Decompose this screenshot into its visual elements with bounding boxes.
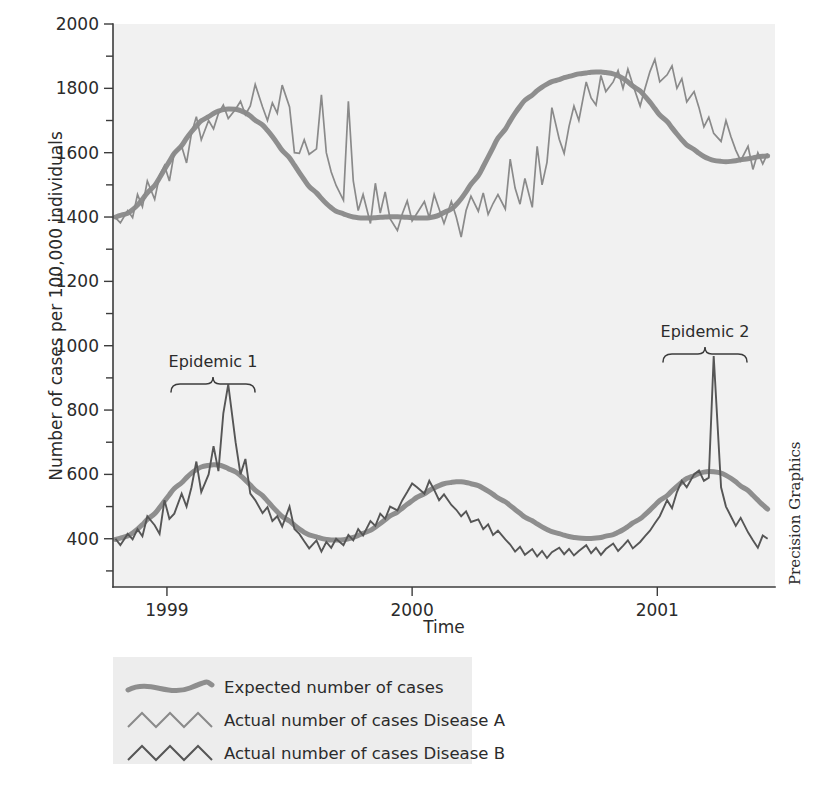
y-tick-label: 1800 <box>56 78 99 98</box>
legend-label: Actual number of cases Disease B <box>224 744 505 763</box>
y-axis-ticks <box>104 24 113 571</box>
x-tick-label: 2001 <box>636 600 679 620</box>
y-tick-label: 800 <box>67 400 99 420</box>
y-tick-label: 600 <box>67 464 99 484</box>
legend-label: Expected number of cases <box>224 678 444 697</box>
x-tick-label: 1999 <box>145 600 188 620</box>
y-axis-title-text: Number of cases per 100,000 individuals <box>46 131 66 481</box>
epidemic-annotation-label: Epidemic 2 <box>661 322 750 341</box>
y-tick-label: 400 <box>67 529 99 549</box>
x-axis-title-text: Time <box>422 617 465 637</box>
legend: Expected number of casesActual number of… <box>113 657 506 764</box>
chart-figure: 400600800100012001400160018002000 199920… <box>0 0 832 792</box>
credit-text: Precision Graphics <box>786 441 804 585</box>
epidemic-annotation-label: Epidemic 1 <box>169 352 258 371</box>
y-axis-title: Number of cases per 100,000 individuals <box>46 131 66 481</box>
plot-background <box>113 24 775 587</box>
credit-label: Precision Graphics <box>786 441 804 585</box>
y-tick-label: 2000 <box>56 14 99 34</box>
x-axis-ticks <box>167 587 657 596</box>
epidemic-chart: 400600800100012001400160018002000 199920… <box>0 0 832 792</box>
x-axis-tick-labels: 199920002001 <box>145 600 679 620</box>
x-axis-title: Time <box>422 617 465 637</box>
legend-label: Actual number of cases Disease A <box>224 711 506 730</box>
